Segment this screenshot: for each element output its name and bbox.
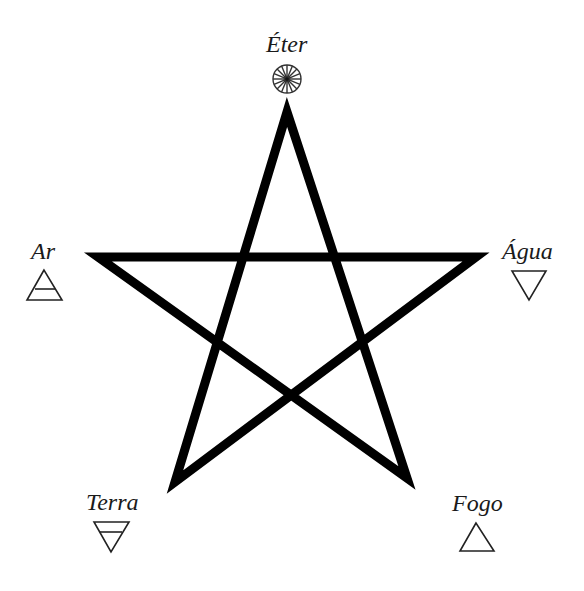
element-label-agua: Água xyxy=(502,239,553,263)
element-label-terra: Terra xyxy=(86,490,138,514)
triangle-up-with-bar-icon xyxy=(27,270,62,300)
wheel-circle-icon xyxy=(273,65,301,93)
element-label-fogo: Fogo xyxy=(452,491,503,515)
triangle-down-with-bar-icon xyxy=(94,522,129,552)
element-label-ar: Ar xyxy=(31,239,55,263)
pentagram-star xyxy=(98,112,476,482)
element-label-eter: Éter xyxy=(266,32,307,56)
triangle-down-icon xyxy=(512,271,546,300)
triangle-up-icon xyxy=(460,523,494,551)
pentagram-diagram: Éter Ar Água Terra Fogo xyxy=(0,0,584,591)
